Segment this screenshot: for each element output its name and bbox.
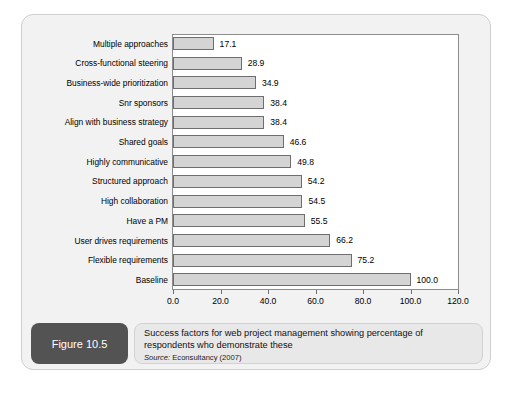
- bar-container: 17.1: [173, 37, 214, 50]
- category-label: Flexible requirements: [22, 256, 168, 264]
- bar: [173, 155, 291, 168]
- bar-value-label: 75.2: [358, 255, 375, 265]
- x-tick-mark: [316, 290, 317, 294]
- bar-value-label: 54.5: [308, 196, 325, 206]
- bar: [173, 135, 284, 148]
- x-tick-label: 100.0: [400, 296, 422, 306]
- caption-source: Source: Econsultancy (2007): [144, 353, 474, 362]
- category-label: Business-wide prioritization: [22, 79, 168, 87]
- bar: [173, 175, 302, 188]
- x-tick-label: 20.0: [212, 296, 229, 306]
- category-label: Cross-functional steering: [22, 59, 168, 67]
- bar-rows: Multiple approaches17.1Cross-functional …: [22, 34, 491, 290]
- bar: [173, 37, 214, 50]
- x-tick-mark: [458, 290, 459, 294]
- bar-row: Baseline100.0: [22, 270, 491, 290]
- bar-value-label: 46.6: [290, 137, 307, 147]
- x-tick-mark: [268, 290, 269, 294]
- bar-container: 54.5: [173, 195, 302, 208]
- bar: [173, 195, 302, 208]
- x-tick-mark: [363, 290, 364, 294]
- caption-source-label: Source:: [144, 353, 170, 362]
- bar-value-label: 38.4: [270, 98, 287, 108]
- category-label: High collaboration: [22, 197, 168, 205]
- category-label: Shared goals: [22, 138, 168, 146]
- category-label: Align with business strategy: [22, 118, 168, 126]
- x-tick-label: 60.0: [307, 296, 324, 306]
- bar-container: 28.9: [173, 57, 242, 70]
- bar: [173, 116, 264, 129]
- bar-container: 55.5: [173, 214, 305, 227]
- bar-value-label: 66.2: [336, 235, 353, 245]
- category-label: Baseline: [22, 276, 168, 284]
- bar-chart: Multiple approaches17.1Cross-functional …: [22, 15, 491, 320]
- bar-container: 46.6: [173, 135, 284, 148]
- bar: [173, 214, 305, 227]
- bar-container: 49.8: [173, 155, 291, 168]
- bar: [173, 254, 352, 267]
- bar-row: Business-wide prioritization34.9: [22, 73, 491, 93]
- x-tick-label: 120.0: [447, 296, 469, 306]
- x-tick-mark: [411, 290, 412, 294]
- bar: [173, 96, 264, 109]
- category-label: Multiple approaches: [22, 40, 168, 48]
- bar: [173, 234, 330, 247]
- bar-value-label: 100.0: [417, 275, 439, 285]
- category-label: Structured approach: [22, 177, 168, 185]
- bar-container: 54.2: [173, 175, 302, 188]
- caption-source-value: Econsultancy (2007): [170, 353, 241, 362]
- bar-container: 34.9: [173, 76, 256, 89]
- category-label: Highly communicative: [22, 158, 168, 166]
- bar-value-label: 49.8: [297, 157, 314, 167]
- x-tick-label: 80.0: [355, 296, 372, 306]
- bar-value-label: 38.4: [270, 117, 287, 127]
- x-axis: 0.020.040.060.080.0100.0120.0: [172, 290, 459, 318]
- x-tick-label: 0.0: [167, 296, 179, 306]
- figure-number-badge: Figure 10.5: [31, 323, 128, 364]
- bar-value-label: 28.9: [248, 58, 265, 68]
- bar-container: 100.0: [173, 273, 411, 286]
- category-label: User drives requirements: [22, 237, 168, 245]
- bar-row: Highly communicative49.8: [22, 152, 491, 172]
- bar-container: 75.2: [173, 254, 352, 267]
- x-tick-label: 40.0: [260, 296, 277, 306]
- bar-row: Align with business strategy38.4: [22, 113, 491, 133]
- bar-value-label: 55.5: [311, 216, 328, 226]
- bar: [173, 76, 256, 89]
- bar-container: 66.2: [173, 234, 330, 247]
- bar-row: Flexible requirements75.2: [22, 251, 491, 271]
- figure-card: Multiple approaches17.1Cross-functional …: [21, 14, 491, 370]
- bar-row: Shared goals46.6: [22, 132, 491, 152]
- bar-value-label: 17.1: [220, 39, 237, 49]
- bar-row: Have a PM55.5: [22, 211, 491, 231]
- bar-row: Snr sponsors38.4: [22, 93, 491, 113]
- bar: [173, 273, 411, 286]
- bar-container: 38.4: [173, 116, 264, 129]
- bar-row: Cross-functional steering28.9: [22, 54, 491, 74]
- x-tick-mark: [221, 290, 222, 294]
- category-label: Snr sponsors: [22, 99, 168, 107]
- caption-text: Success factors for web project manageme…: [144, 328, 474, 351]
- x-tick-mark: [173, 290, 174, 294]
- category-label: Have a PM: [22, 217, 168, 225]
- caption-panel: Success factors for web project manageme…: [134, 323, 483, 364]
- bar-row: High collaboration54.5: [22, 192, 491, 212]
- bar-row: User drives requirements66.2: [22, 231, 491, 251]
- bar-row: Structured approach54.2: [22, 172, 491, 192]
- bar-container: 38.4: [173, 96, 264, 109]
- bar-value-label: 34.9: [262, 78, 279, 88]
- bar-row: Multiple approaches17.1: [22, 34, 491, 54]
- bar-value-label: 54.2: [308, 176, 325, 186]
- figure-caption-bar: Figure 10.5 Success factors for web proj…: [22, 320, 491, 370]
- bar: [173, 57, 242, 70]
